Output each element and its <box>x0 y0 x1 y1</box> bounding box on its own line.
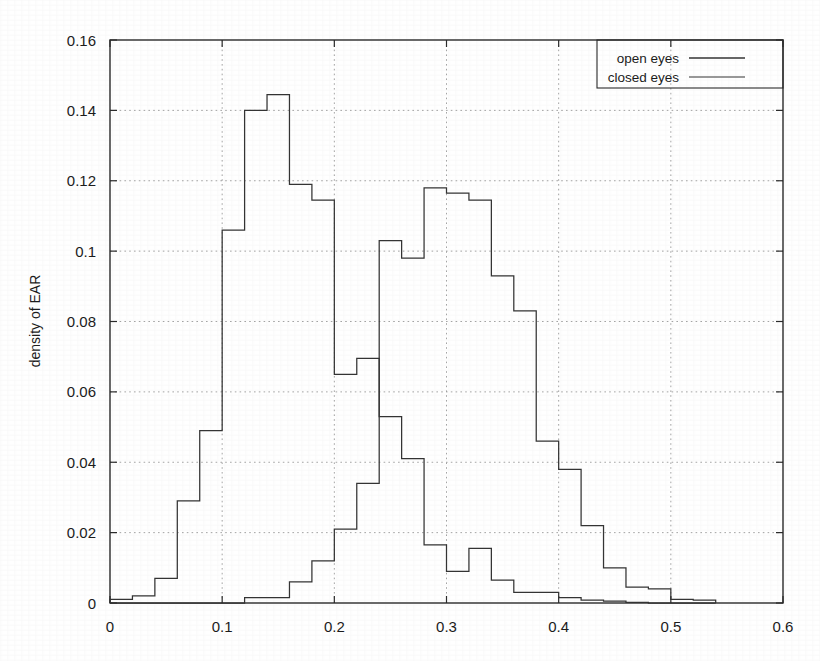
y-tick-label: 0.08 <box>67 313 96 330</box>
y-tick-label: 0.12 <box>67 172 96 189</box>
y-tick-label: 0 <box>88 595 96 612</box>
y-axis-title: density of EAR <box>27 275 43 368</box>
chart-background <box>0 0 820 661</box>
y-tick-label: 0.04 <box>67 454 96 471</box>
x-tick-label: 0.3 <box>436 618 457 635</box>
legend-label-open-eyes: open eyes <box>617 51 680 66</box>
y-tick-label: 0.14 <box>67 102 96 119</box>
x-tick-label: 0.6 <box>773 618 794 635</box>
x-tick-label: 0.5 <box>660 618 681 635</box>
y-tick-label: 0.06 <box>67 383 96 400</box>
legend-label-closed-eyes: closed eyes <box>608 70 680 85</box>
y-axis-tick-labels: 00.020.040.060.080.10.120.140.16 <box>67 32 96 612</box>
histogram-figure: 00.10.20.30.40.50.6 00.020.040.060.080.1… <box>0 0 820 661</box>
y-tick-label: 0.16 <box>67 32 96 49</box>
x-tick-label: 0.4 <box>548 618 569 635</box>
x-tick-label: 0 <box>106 618 114 635</box>
x-tick-label: 0.1 <box>212 618 233 635</box>
y-tick-label: 0.1 <box>75 243 96 260</box>
chart-canvas: 00.10.20.30.40.50.6 00.020.040.060.080.1… <box>0 0 820 661</box>
y-tick-label: 0.02 <box>67 524 96 541</box>
y-axis-title-label: density of EAR <box>27 275 43 368</box>
x-tick-label: 0.2 <box>324 618 345 635</box>
